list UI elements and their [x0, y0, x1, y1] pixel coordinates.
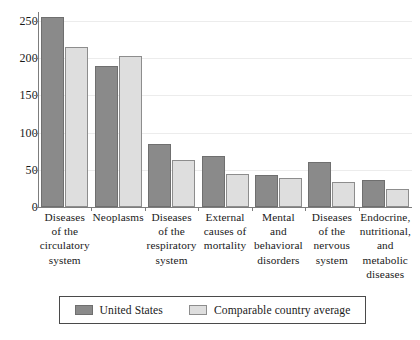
x-axis-category-label: Diseasesof thecirculatorysystem [34, 210, 95, 267]
axes: 050100150200250 [38, 12, 412, 208]
bar [148, 144, 171, 207]
light-gray-swatch-icon [189, 305, 207, 315]
x-axis-line [38, 207, 412, 208]
legend-item-comparable-country-average: Comparable country average [189, 304, 351, 317]
bar [362, 180, 385, 207]
bar [279, 178, 302, 207]
x-axis-category-label: Externalcauses ofmortality [194, 210, 255, 253]
y-axis-tick-label: 100 [2, 126, 38, 140]
legend: United States Comparable country average [59, 296, 366, 324]
plot-area: 050100150200250 [38, 12, 412, 208]
bar [386, 189, 409, 207]
bar [255, 175, 278, 207]
bar [202, 156, 225, 207]
x-axis-category-label: Endocrine,nutritional,andmetabolicdiseas… [355, 210, 416, 281]
x-axis-category-label: Diseasesof thenervoussystem [301, 210, 362, 267]
y-axis-tick-label: 200 [2, 51, 38, 65]
x-axis-category-label: Diseasesof therespiratorysystem [141, 210, 202, 267]
x-axis-category-labels: Diseasesof thecirculatorysystemNeoplasms… [38, 210, 412, 286]
legend-label: Comparable country average [214, 304, 351, 317]
bar [332, 182, 355, 207]
legend-label: United States [100, 304, 163, 317]
y-axis-tick-label: 0 [2, 200, 38, 214]
bar [172, 160, 195, 207]
bars-layer [38, 12, 412, 207]
bar [308, 162, 331, 207]
x-axis-category-label: Neoplasms [87, 210, 148, 224]
bar [119, 56, 142, 207]
bar [65, 47, 88, 207]
x-axis-category-label: Mentalandbehavioraldisorders [248, 210, 309, 267]
bar [41, 17, 64, 207]
y-axis-tick-label: 50 [2, 163, 38, 177]
y-axis-tick-label: 150 [2, 88, 38, 102]
legend-item-united-states: United States [75, 304, 163, 317]
dark-gray-swatch-icon [75, 305, 93, 315]
bar-chart: 050100150200250 Diseasesof thecirculator… [0, 0, 420, 340]
y-axis-tick-label: 250 [2, 14, 38, 28]
bar [95, 66, 118, 207]
bar [226, 174, 249, 207]
